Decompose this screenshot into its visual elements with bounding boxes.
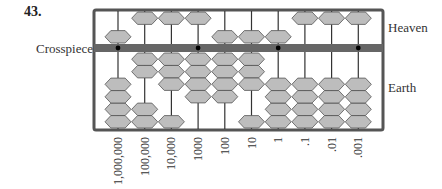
earth-bead <box>239 116 265 128</box>
heaven-bead <box>239 31 265 43</box>
earth-bead <box>345 91 371 103</box>
earth-bead <box>265 103 291 115</box>
earth-bead <box>185 91 211 103</box>
earth-bead <box>319 116 345 128</box>
place-label: .01 <box>326 137 338 152</box>
earth-bead <box>185 78 211 90</box>
earth-bead <box>265 116 291 128</box>
earth-bead <box>265 78 291 90</box>
earth-bead <box>132 53 158 65</box>
earth-bead <box>239 78 265 90</box>
earth-bead <box>105 103 131 115</box>
earth-bead <box>345 103 371 115</box>
place-label: 100 <box>219 137 231 155</box>
place-label: 10 <box>246 137 258 149</box>
heaven-bead <box>212 31 238 43</box>
heaven-bead <box>319 12 345 24</box>
earth-bead <box>345 116 371 128</box>
unit-dot <box>116 46 121 51</box>
heaven-bead <box>132 12 158 24</box>
unit-dot <box>356 46 361 51</box>
earth-bead <box>292 116 318 128</box>
earth-bead <box>292 91 318 103</box>
place-label: 100,000 <box>139 137 151 176</box>
earth-bead <box>158 53 184 65</box>
place-label: 10,000 <box>165 137 177 170</box>
place-label: .001 <box>352 137 364 158</box>
heaven-bead <box>105 31 131 43</box>
crosspiece-bar <box>94 44 383 52</box>
unit-dot <box>276 46 281 51</box>
earth-bead <box>158 78 184 90</box>
earth-bead <box>158 116 184 128</box>
earth-bead <box>105 116 131 128</box>
earth-bead <box>239 53 265 65</box>
earth-bead <box>292 103 318 115</box>
earth-bead <box>292 78 318 90</box>
earth-bead <box>265 91 291 103</box>
earth-bead <box>105 91 131 103</box>
earth-bead <box>345 78 371 90</box>
place-label: .1 <box>299 137 311 146</box>
earth-bead <box>212 66 238 78</box>
earth-bead <box>319 103 345 115</box>
earth-bead <box>319 78 345 90</box>
heaven-bead <box>158 12 184 24</box>
heaven-bead <box>345 12 371 24</box>
earth-bead <box>212 78 238 90</box>
earth-bead <box>239 66 265 78</box>
earth-bead <box>319 91 345 103</box>
earth-bead <box>105 78 131 90</box>
heaven-bead <box>265 31 291 43</box>
earth-bead <box>132 103 158 115</box>
earth-bead <box>185 53 211 65</box>
earth-bead <box>185 66 211 78</box>
earth-bead <box>212 53 238 65</box>
earth-bead <box>212 91 238 103</box>
place-label: 1 <box>272 137 284 143</box>
earth-bead <box>158 66 184 78</box>
earth-bead <box>132 66 158 78</box>
place-label: 1000 <box>192 137 204 161</box>
heaven-bead <box>185 12 211 24</box>
unit-dot <box>196 46 201 51</box>
abacus-diagram <box>0 0 442 189</box>
place-label: 1,000,000 <box>112 137 124 185</box>
heaven-bead <box>292 12 318 24</box>
earth-bead <box>132 116 158 128</box>
